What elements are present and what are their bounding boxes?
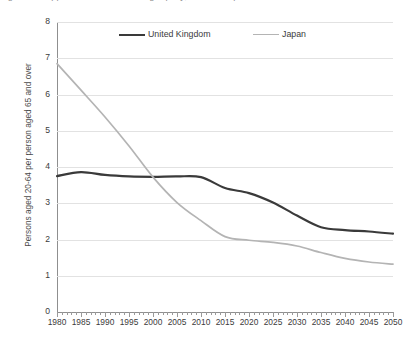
x-minor-tick: [326, 312, 327, 315]
x-minor-tick: [62, 312, 63, 315]
legend-label: United Kingdom: [148, 29, 211, 39]
series-line-japan: [57, 64, 393, 264]
y-tick-label: 3: [20, 197, 50, 207]
x-minor-tick: [340, 312, 341, 315]
x-minor-tick: [163, 312, 164, 315]
x-minor-tick: [369, 312, 370, 317]
y-tick-label: 8: [20, 16, 50, 26]
x-minor-tick: [393, 312, 394, 317]
x-minor-tick: [172, 312, 173, 315]
x-minor-tick: [110, 312, 111, 315]
x-minor-tick: [230, 312, 231, 315]
x-minor-tick: [124, 312, 125, 315]
chart-figure: Figure 1. Support ratios are declining r…: [0, 0, 416, 339]
plot-area: United KingdomJapan: [57, 22, 393, 312]
x-tick-label: 2050: [373, 317, 413, 327]
y-tick-label: 0: [20, 306, 50, 316]
x-minor-tick: [86, 312, 87, 315]
x-minor-tick: [182, 312, 183, 315]
x-minor-tick: [115, 312, 116, 315]
x-minor-tick: [71, 312, 72, 315]
x-minor-tick: [143, 312, 144, 315]
x-minor-tick: [158, 312, 159, 315]
x-minor-tick: [220, 312, 221, 315]
x-minor-tick: [187, 312, 188, 315]
x-minor-tick: [355, 312, 356, 315]
y-tick-label: 5: [20, 125, 50, 135]
x-minor-tick: [374, 312, 375, 315]
y-tick-label: 1: [20, 270, 50, 280]
x-minor-tick: [153, 312, 154, 317]
x-minor-tick: [307, 312, 308, 315]
x-minor-tick: [67, 312, 68, 315]
x-minor-tick: [273, 312, 274, 317]
legend-label: Japan: [282, 29, 306, 39]
x-minor-tick: [297, 312, 298, 317]
x-minor-tick: [201, 312, 202, 317]
x-minor-tick: [196, 312, 197, 315]
chart-legend: United KingdomJapan: [57, 22, 393, 42]
x-minor-tick: [167, 312, 168, 315]
y-tick-label: 2: [20, 234, 50, 244]
legend-swatch: [253, 34, 279, 35]
y-tick-label: 4: [20, 161, 50, 171]
x-minor-tick: [249, 312, 250, 317]
x-minor-tick: [283, 312, 284, 315]
x-minor-tick: [95, 312, 96, 315]
x-minor-tick: [244, 312, 245, 315]
x-minor-tick: [91, 312, 92, 315]
x-minor-tick: [235, 312, 236, 315]
x-minor-tick: [359, 312, 360, 315]
series-lines: [57, 22, 393, 313]
y-tick-label: 7: [20, 52, 50, 62]
x-minor-tick: [335, 312, 336, 315]
x-minor-tick: [331, 312, 332, 315]
x-minor-tick: [268, 312, 269, 315]
x-minor-tick: [364, 312, 365, 315]
x-minor-tick: [100, 312, 101, 315]
x-minor-tick: [287, 312, 288, 315]
x-minor-tick: [345, 312, 346, 317]
x-minor-tick: [211, 312, 212, 315]
figure-title: Figure 1. Support ratios are declining r…: [0, 0, 416, 5]
y-tick-label: 6: [20, 89, 50, 99]
x-minor-tick: [379, 312, 380, 315]
x-minor-tick: [350, 312, 351, 315]
x-minor-tick: [259, 312, 260, 315]
x-minor-tick: [292, 312, 293, 315]
x-minor-tick: [76, 312, 77, 315]
x-minor-tick: [81, 312, 82, 317]
x-minor-tick: [311, 312, 312, 315]
x-minor-tick: [215, 312, 216, 315]
x-minor-tick: [302, 312, 303, 315]
series-line-united-kingdom: [57, 172, 393, 234]
x-minor-tick: [148, 312, 149, 315]
x-minor-tick: [225, 312, 226, 317]
x-minor-tick: [105, 312, 106, 317]
x-minor-tick: [321, 312, 322, 317]
x-minor-tick: [57, 312, 58, 317]
x-minor-tick: [206, 312, 207, 315]
x-minor-tick: [119, 312, 120, 315]
x-minor-tick: [134, 312, 135, 315]
x-minor-tick: [388, 312, 389, 315]
x-minor-tick: [129, 312, 130, 317]
legend-swatch: [119, 34, 145, 36]
x-minor-tick: [383, 312, 384, 315]
x-minor-tick: [139, 312, 140, 315]
x-minor-tick: [177, 312, 178, 317]
x-minor-tick: [239, 312, 240, 315]
x-minor-tick: [191, 312, 192, 315]
x-minor-tick: [278, 312, 279, 315]
x-minor-tick: [316, 312, 317, 315]
x-minor-tick: [254, 312, 255, 315]
x-minor-tick: [263, 312, 264, 315]
